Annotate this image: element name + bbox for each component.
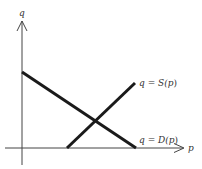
x-axis-label: p [188,143,194,153]
supply-demand-diagram: q p q = S(p) q = D(p) [0,0,202,169]
supply-label: q = S(p) [139,78,177,88]
supply-curve [67,83,135,148]
demand-label: q = D(p) [139,135,178,145]
y-axis-label: q [19,8,25,18]
